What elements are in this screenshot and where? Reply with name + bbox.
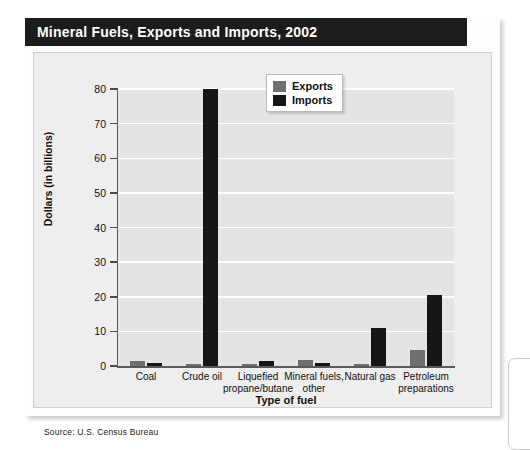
bar-imports	[371, 328, 386, 366]
bar-group	[286, 89, 342, 366]
bar-exports	[130, 361, 145, 366]
screenshot-root: Mineral Fuels, Exports and Imports, 2002…	[0, 0, 530, 450]
bar-imports	[259, 361, 274, 366]
figure-title: Mineral Fuels, Exports and Imports, 2002	[37, 24, 317, 40]
bar-imports	[315, 363, 330, 366]
y-tick-label: 50	[76, 187, 106, 199]
bar-group	[230, 89, 286, 366]
y-tick-label: 80	[76, 83, 106, 95]
y-tick-label: 70	[76, 118, 106, 130]
bar-exports	[354, 364, 369, 367]
bar-imports	[203, 89, 218, 366]
bar-group	[342, 89, 398, 366]
plot-area	[118, 89, 454, 366]
bar-imports	[427, 295, 442, 366]
legend-swatch-imports	[273, 95, 286, 106]
bar-exports	[410, 350, 425, 366]
legend-label-exports: Exports	[292, 80, 333, 92]
bar-imports	[147, 363, 162, 366]
bar-exports	[298, 360, 313, 366]
y-tick-label: 40	[76, 222, 106, 234]
bar-group	[118, 89, 174, 366]
y-tick-label: 30	[76, 256, 106, 268]
y-axis-title: Dollars (in billions)	[42, 99, 54, 259]
page-edge-artifact	[508, 358, 530, 450]
bar-exports	[186, 364, 201, 367]
y-tick-label: 20	[76, 291, 106, 303]
figure-panel: Mineral Fuels, Exports and Imports, 2002…	[25, 18, 500, 416]
bar-group	[174, 89, 230, 366]
chart-frame: Dollars (in billions) 01020304050607080 …	[33, 52, 492, 408]
figure-title-bar: Mineral Fuels, Exports and Imports, 2002	[25, 18, 467, 46]
chart-legend: Exports Imports	[266, 74, 343, 112]
category-label: Petroleumpreparations	[388, 371, 464, 395]
y-tick-label: 10	[76, 325, 106, 337]
y-tick-label: 60	[76, 152, 106, 164]
category-label-line: Petroleum	[388, 371, 464, 383]
legend-label-imports: Imports	[292, 94, 332, 106]
legend-swatch-exports	[273, 81, 286, 92]
source-note: Source: U.S. Census Bureau	[44, 427, 158, 437]
x-axis-line	[117, 366, 455, 368]
legend-item-imports: Imports	[273, 93, 333, 107]
y-tick-label: 0	[76, 360, 106, 372]
bar-group	[398, 89, 454, 366]
legend-item-exports: Exports	[273, 79, 333, 93]
x-axis-title: Type of fuel	[118, 394, 454, 406]
bar-exports	[242, 364, 257, 367]
